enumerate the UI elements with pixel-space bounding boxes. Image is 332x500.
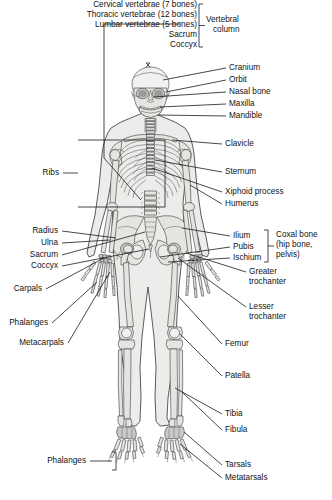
leader-maxilla	[160, 104, 226, 107]
label-vertebral-column-line1: Vertebral	[206, 15, 239, 24]
left-hand-group	[81, 254, 115, 298]
label-metacarpals: Metacarpals	[0, 338, 64, 347]
label-ulna: Ulna	[0, 238, 58, 247]
leader-metatarsals	[180, 444, 222, 478]
vertebral-column-bracket	[199, 4, 205, 47]
label-clavicle: Clavicle	[225, 139, 254, 148]
label-greater-trochanter-line2: trochanter	[249, 277, 286, 286]
leader-tarsals	[184, 432, 222, 465]
label-carpals: Carpals	[0, 284, 42, 293]
label-tarsals: Tarsals	[225, 460, 251, 469]
leader-phalanges-hand	[52, 282, 97, 323]
coxal-bone-bracket	[264, 230, 274, 262]
metacarpals-right	[187, 261, 212, 277]
leader-mandible	[158, 115, 226, 116]
leader-orbit	[166, 80, 226, 92]
carpals-right	[189, 254, 203, 263]
label-sternum: Sternum	[225, 167, 256, 176]
label-sacrum: Sacrum	[0, 250, 58, 259]
metacarpals-left	[89, 261, 114, 277]
label-phalanges-foot: Phalanges	[0, 456, 86, 465]
label-maxilla: Maxilla	[229, 99, 255, 108]
right-foot-group	[156, 427, 192, 463]
lower-legs-group	[118, 349, 184, 427]
label-patella: Patella	[225, 371, 250, 380]
label-pubis: Pubis	[233, 242, 254, 251]
label-mandible: Mandible	[229, 111, 262, 120]
skull-group	[132, 66, 170, 118]
label-coccyx-top: Coccyx	[7, 40, 197, 49]
label-phalanges-hand: Phalanges	[0, 318, 48, 327]
label-thoracic-vertebrae: Thoracic vertebrae (12 bones)	[7, 10, 197, 19]
cervical-vertebrae-group	[145, 118, 156, 133]
label-sacrum-top: Sacrum	[7, 30, 197, 39]
label-coxal-bone-line2: (hip bone,	[276, 240, 313, 249]
label-lumbar-vertebrae: Lumbar vertebrae (5 bones)	[7, 20, 197, 29]
left-foot-group	[109, 427, 145, 463]
label-ribs: Ribs	[0, 168, 59, 177]
label-radius: Radius	[0, 226, 58, 235]
label-humerus: Humerus	[225, 199, 258, 208]
skeleton-diagram: Cervical vertebrae (7 bones) Thoracic ve…	[0, 0, 332, 500]
label-cervical-vertebrae: Cervical vertebrae (7 bones)	[7, 0, 197, 9]
label-metatarsals: Metatarsals	[225, 473, 268, 482]
label-lesser-trochanter-line1: Lesser	[249, 302, 274, 311]
label-tibia: Tibia	[225, 409, 243, 418]
leader-femur	[178, 296, 222, 344]
leader-metacarpals	[68, 272, 110, 343]
label-ischium: Ischium	[233, 253, 261, 262]
label-xiphoid-process: Xiphoid process	[225, 187, 284, 196]
label-orbit: Orbit	[229, 75, 247, 84]
label-femur: Femur	[225, 339, 249, 348]
leader-cranium	[163, 68, 226, 80]
label-coccyx: Coccyx	[0, 261, 58, 270]
knees-group	[118, 327, 183, 349]
leader-patella	[180, 334, 222, 376]
label-fibula: Fibula	[225, 425, 247, 434]
label-vertebral-column-line2: column	[213, 25, 240, 34]
label-ilium: Ilium	[233, 231, 250, 240]
label-lesser-trochanter-line2: trochanter	[249, 312, 286, 321]
label-coxal-bone-line3: pelvis)	[276, 250, 300, 259]
label-coxal-bone-line1: Coxal bone	[276, 230, 318, 239]
label-nasal-bone: Nasal bone	[229, 87, 271, 96]
label-greater-trochanter-line1: Greater	[249, 267, 277, 276]
label-cranium: Cranium	[229, 63, 260, 72]
